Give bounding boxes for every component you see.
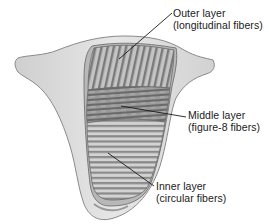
inner-layer-title: Inner layer bbox=[156, 180, 226, 192]
outer-layer-detail: (longitudinal fibers) bbox=[173, 19, 263, 31]
outer-layer-label: Outer layer (longitudinal fibers) bbox=[173, 7, 263, 31]
middle-layer-title: Middle layer bbox=[188, 109, 260, 121]
inner-layer-detail: (circular fibers) bbox=[156, 192, 226, 204]
middle-layer-label: Middle layer (figure-8 fibers) bbox=[188, 109, 260, 133]
outer-layer-title: Outer layer bbox=[173, 7, 263, 19]
middle-layer-detail: (figure-8 fibers) bbox=[188, 121, 260, 133]
middle-layer-fibers bbox=[87, 87, 170, 123]
inner-layer-fibers bbox=[87, 119, 165, 200]
inner-layer-label: Inner layer (circular fibers) bbox=[156, 180, 226, 204]
outer-layer-fibers bbox=[88, 45, 174, 90]
uterus-muscle-diagram: Outer layer (longitudinal fibers) Middle… bbox=[0, 0, 269, 224]
